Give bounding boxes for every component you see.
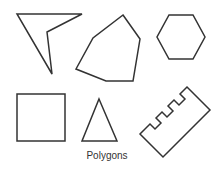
polygons-diagram <box>0 0 214 172</box>
irregular-hexagon <box>76 15 140 81</box>
comb-polygon <box>140 87 210 157</box>
concave-quadrilateral <box>17 14 82 74</box>
square <box>17 94 65 141</box>
regular-hexagon <box>157 15 205 59</box>
figure-caption: Polygons <box>0 150 214 161</box>
triangle <box>82 99 117 141</box>
